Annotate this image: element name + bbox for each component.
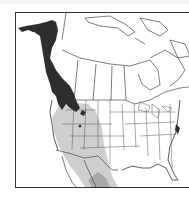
top-edge bbox=[0, 0, 189, 4]
range-map bbox=[0, 0, 189, 208]
range-map-svg bbox=[0, 0, 189, 208]
great-salt-lake bbox=[79, 125, 82, 128]
